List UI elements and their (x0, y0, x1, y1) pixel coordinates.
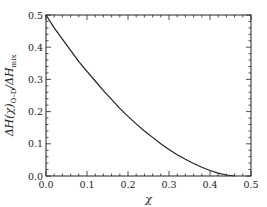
y-label-sub2: mix (10, 55, 18, 68)
x-tick-label: 0.4 (202, 179, 217, 190)
y-tick-label: 0.0 (28, 171, 43, 182)
y-tick-label: 0.4 (28, 42, 43, 53)
x-tick-label: 0.2 (120, 179, 135, 190)
chart: 0.00.10.20.30.40.50.00.10.20.30.40.5 χ Δ… (0, 0, 267, 207)
plot-frame (46, 15, 251, 176)
y-tick-label: 0.1 (28, 138, 43, 149)
x-tick-label: 0.3 (161, 179, 176, 190)
y-tick-label: 0.2 (28, 106, 43, 117)
y-tick-label: 0.3 (28, 74, 43, 85)
y-tick-label: 0.5 (28, 10, 43, 21)
series-line (46, 15, 235, 176)
y-label-sub: O–D (10, 88, 18, 103)
x-tick-label: 0.1 (79, 179, 94, 190)
ticks (46, 15, 251, 176)
x-tick-label: 0.5 (243, 179, 258, 190)
x-axis-label: χ (144, 193, 153, 206)
tick-labels: 0.00.10.20.30.40.50.00.10.20.30.40.5 (28, 10, 259, 191)
y-axis-label: ΔH(χ)O–D/ΔHmix (3, 55, 18, 138)
y-label-mid: /ΔH (3, 67, 16, 90)
y-label-main: ΔH(χ) (3, 104, 16, 138)
